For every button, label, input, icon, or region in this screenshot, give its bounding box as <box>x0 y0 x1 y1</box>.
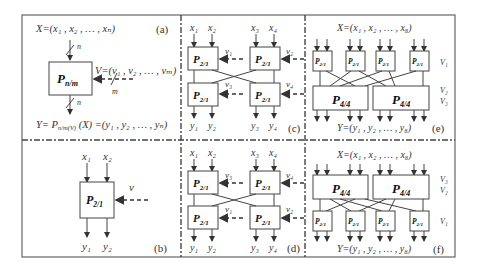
input-x3: x₃ <box>250 147 259 158</box>
input-x4: x₄ <box>268 22 277 33</box>
panel-b: x₁ x₂ P2/1 v y₁ y₂ (b) <box>80 150 167 255</box>
control-v2: v₂ <box>286 204 293 214</box>
input-x1: x₁ <box>189 147 198 158</box>
input-x2: x₂ <box>207 147 216 158</box>
panel-a: X=(x₁ , x₂ , … , xₙ) (a) n Pn/m V=(v₁ , … <box>35 23 177 132</box>
output-y2: y₂ <box>207 120 216 131</box>
control-set-label: V=(v₁ , v₂ , … , vₘ) <box>95 65 177 77</box>
output-set-label: Y=(y₁ , y₂ , … , y₈) <box>337 122 412 134</box>
input-set-label: X=(x₁ , x₂ , … , xₙ) <box>35 23 115 35</box>
control-V2: V₂ <box>440 86 448 95</box>
output-set-label: Y=(y₁ , y₂ , … , y₈) <box>337 243 412 255</box>
control-v: v <box>129 181 134 193</box>
input-x1: x₁ <box>189 22 198 33</box>
panel-d: x₁ x₂ x₃ x₄ P2/1 P2/1 P2/1 P2/1 v₃ v₄ v₁… <box>188 147 304 255</box>
panel-c: x₁ x₂ x₃ x₄ P2/1 P2/1 P2/1 P2/1 v₁ v₂ v₃… <box>188 22 304 135</box>
panel-label-d: (d) <box>287 242 300 255</box>
output-y2: y₂ <box>102 240 112 252</box>
output-y4: y₄ <box>268 120 277 131</box>
input-x3: x₃ <box>250 22 259 33</box>
input-x2: x₂ <box>102 150 112 162</box>
input-width-label: n <box>77 42 81 51</box>
output-y3: y₃ <box>250 120 259 131</box>
panel-label-a: (a) <box>156 23 169 36</box>
control-V3: V₃ <box>440 175 448 184</box>
panel-e: X=(x₁ , x₂ , … , x₈) P2/1 P2/1 P2/1 P2/1 <box>313 22 448 135</box>
control-V1: V₁ <box>440 217 448 226</box>
panel-label-f: (f) <box>433 243 444 256</box>
panel-label-e: (e) <box>432 122 445 135</box>
input-set-label: X=(x₁ , x₂ , … , x₈) <box>336 22 412 34</box>
control-V1: V₁ <box>440 58 448 67</box>
output-y1: y₁ <box>189 242 198 253</box>
output-y1: y₁ <box>81 240 91 252</box>
output-equation: Y= Pn/m(V) (X) =(y₁ , y₂ , … , yₙ) <box>36 119 168 132</box>
control-V2: V₂ <box>440 186 448 195</box>
control-v3: v₃ <box>225 79 232 89</box>
input-x1: x₁ <box>81 150 91 162</box>
control-v1: v₁ <box>225 204 232 214</box>
input-x2: x₂ <box>207 22 216 33</box>
control-v1: v₁ <box>225 46 232 56</box>
control-v4: v₄ <box>286 170 293 180</box>
controlled-permutation-diagram: X=(x₁ , x₂ , … , xₙ) (a) n Pn/m V=(v₁ , … <box>0 0 477 277</box>
control-v3: v₃ <box>225 170 232 180</box>
control-V3: V₃ <box>440 97 448 106</box>
panel-label-b: (b) <box>154 242 167 255</box>
panel-label-c: (c) <box>288 122 301 135</box>
input-x4: x₄ <box>268 147 277 158</box>
output-y2: y₂ <box>207 242 216 253</box>
control-v4: v₄ <box>286 79 293 89</box>
output-y4: y₄ <box>268 242 277 253</box>
output-y3: y₃ <box>250 242 259 253</box>
output-y1: y₁ <box>189 120 198 131</box>
panel-f: X=(x₁ , x₂ , … , x₈) P4/4 P4/4 <box>313 149 448 256</box>
input-set-label: X=(x₁ , x₂ , … , x₈) <box>336 149 412 161</box>
control-width-label: m <box>112 87 118 96</box>
output-width-label: n <box>77 98 81 107</box>
control-v2: v₂ <box>286 46 293 56</box>
